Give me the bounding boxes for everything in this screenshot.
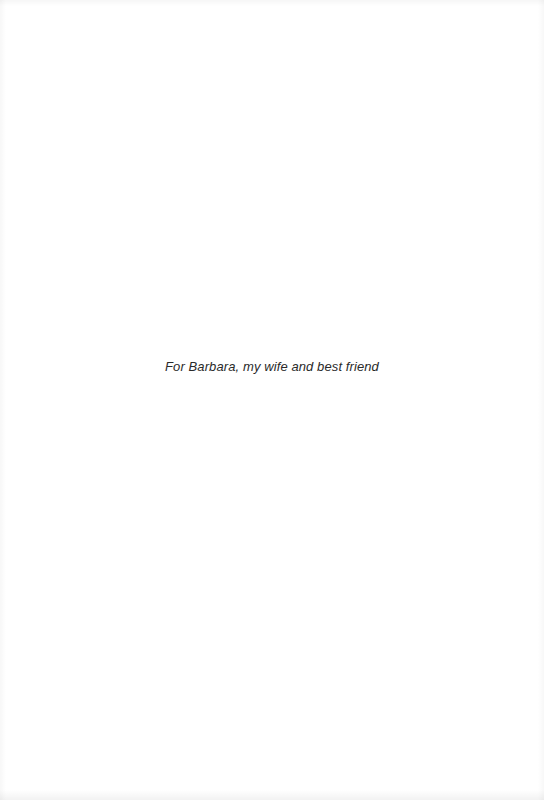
book-page: For Barbara, my wife and best friend [0,0,544,800]
dedication-text: For Barbara, my wife and best friend [0,358,544,376]
